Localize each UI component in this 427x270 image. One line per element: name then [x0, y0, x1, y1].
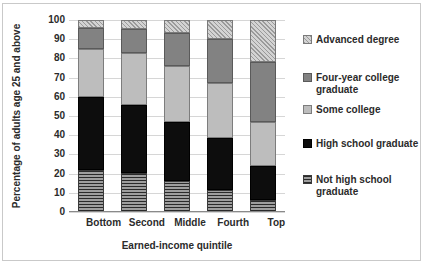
y-axis-tick-label: 20 — [35, 169, 65, 179]
y-axis-tick-label: 70 — [35, 73, 65, 83]
legend-item[interactable]: High school graduate — [303, 138, 424, 150]
bar-segment-fouryear[interactable] — [207, 39, 233, 83]
legend-item[interactable]: Advanced degree — [303, 34, 424, 46]
legend-swatch-icon — [303, 35, 312, 44]
legend-label: Four-year college graduate — [316, 72, 424, 96]
bar-segment-advanced[interactable] — [121, 20, 147, 29]
bar-segment-fouryear[interactable] — [164, 33, 190, 66]
y-axis-tick-label: 50 — [35, 111, 65, 121]
legend-label: High school graduate — [316, 138, 424, 150]
y-axis-tick-label: 60 — [35, 92, 65, 102]
y-axis-tick-label: 10 — [35, 188, 65, 198]
bar-segment-somecollege[interactable] — [164, 66, 190, 122]
bar-segment-highschool[interactable] — [78, 97, 104, 170]
y-axis-tick-labels: 0102030405060708090100 — [33, 20, 65, 212]
legend-swatch-icon — [303, 105, 312, 114]
legend-label: Some college — [316, 104, 424, 116]
bar-segment-highschool[interactable] — [164, 122, 190, 182]
legend-label: Not high school graduate — [316, 174, 424, 198]
bar-segment-highschool[interactable] — [121, 105, 147, 172]
bar-segment-nothighschool[interactable] — [164, 181, 190, 212]
x-axis-tick-label: Top — [250, 216, 302, 230]
bar-segment-somecollege[interactable] — [78, 49, 104, 97]
legend-swatch-icon — [303, 139, 312, 148]
legend-item[interactable]: Some college — [303, 104, 424, 116]
y-axis-tick-label: 30 — [35, 149, 65, 159]
bar-segment-somecollege[interactable] — [250, 122, 276, 166]
legend-swatch-icon — [303, 73, 312, 82]
legend-item[interactable]: Four-year college graduate — [303, 72, 424, 96]
stacked-bar[interactable] — [78, 20, 104, 212]
y-axis-title: Percentage of adults age 25 and above — [9, 18, 25, 214]
bar-segment-fouryear[interactable] — [78, 28, 104, 49]
bar-segment-highschool[interactable] — [207, 138, 233, 190]
x-axis-tick-labels: BottomSecondMiddleFourthTop — [69, 216, 285, 232]
bar-segment-fouryear[interactable] — [121, 29, 147, 53]
stacked-bar[interactable] — [207, 20, 233, 212]
bar-segment-advanced[interactable] — [250, 20, 276, 62]
bar-segment-advanced[interactable] — [207, 20, 233, 39]
legend-label: Advanced degree — [316, 34, 424, 46]
plot-area — [69, 20, 285, 212]
legend-item[interactable]: Not high school graduate — [303, 174, 424, 198]
bar-segment-somecollege[interactable] — [207, 83, 233, 138]
stacked-bar[interactable] — [164, 20, 190, 212]
y-axis-tick-label: 100 — [35, 15, 65, 25]
bar-segment-fouryear[interactable] — [250, 62, 276, 122]
bar-segment-nothighschool[interactable] — [121, 173, 147, 212]
bar-segment-advanced[interactable] — [78, 20, 104, 28]
bar-segment-nothighschool[interactable] — [78, 170, 104, 212]
chart-frame: Percentage of adults age 25 and above 01… — [2, 3, 421, 261]
bar-segment-nothighschool[interactable] — [207, 190, 233, 212]
bar-segment-advanced[interactable] — [164, 20, 190, 33]
legend-swatch-icon — [303, 175, 312, 184]
y-axis-tick-label: 0 — [35, 207, 65, 217]
stacked-bar[interactable] — [250, 20, 276, 212]
y-axis-tick-label: 80 — [35, 53, 65, 63]
bar-segment-somecollege[interactable] — [121, 53, 147, 106]
x-axis-title: Earned-income quintile — [69, 240, 285, 251]
gridline — [69, 212, 285, 213]
y-axis-tick-label: 90 — [35, 34, 65, 44]
x-axis-line — [69, 211, 285, 212]
y-axis-tick-label: 40 — [35, 130, 65, 140]
bar-segment-highschool[interactable] — [250, 166, 276, 201]
stacked-bar[interactable] — [121, 20, 147, 212]
